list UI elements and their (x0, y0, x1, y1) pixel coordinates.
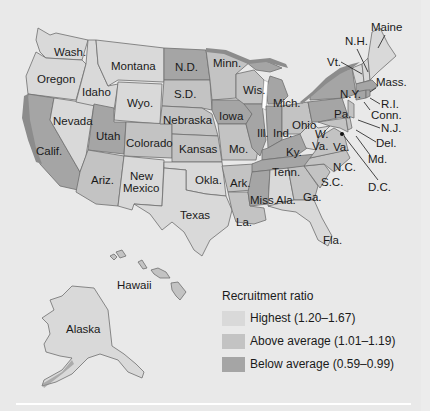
state-rhode-island (366, 90, 370, 98)
label-va: Va. (333, 141, 349, 153)
label-oregon: Oregon (37, 73, 75, 85)
label-sc: S.C. (321, 176, 343, 188)
label-nd: N.D. (175, 61, 198, 73)
label-mo: Mo. (229, 143, 248, 155)
label-calif: Calif. (36, 145, 62, 157)
legend-item-above-average: Above average (1.01–1.19) (222, 333, 395, 349)
label-nm-1: New (130, 170, 154, 182)
legend-title: Recruitment ratio (222, 289, 395, 303)
legend-swatch-above-average (222, 334, 245, 349)
label-conn: Conn. (371, 109, 402, 121)
label-wyo: Wyo. (127, 97, 153, 109)
label-texas: Texas (180, 209, 210, 221)
label-wva-va: Va. (312, 140, 328, 152)
legend-item-highest: Highest (1.20–1.67) (222, 310, 395, 326)
label-pa: Pa. (334, 108, 351, 120)
state-alaska (42, 286, 144, 386)
label-ala: Ala. (276, 194, 296, 206)
label-mich: Mich. (273, 97, 300, 109)
marker-dc (340, 132, 344, 136)
label-nebraska: Nebraska (163, 114, 213, 126)
label-ny: N.Y. (340, 88, 361, 100)
label-vt: Vt. (327, 56, 341, 68)
label-wva-w: W. (315, 128, 328, 140)
label-nm-2: Mexico (123, 182, 159, 194)
label-nc: N.C. (333, 161, 356, 173)
label-sd: S.D. (174, 88, 196, 100)
label-montana: Montana (111, 60, 156, 72)
label-del: Del. (376, 137, 396, 149)
label-ga: Ga. (303, 191, 322, 203)
legend-swatch-below-average (222, 357, 245, 372)
label-minn: Minn. (213, 57, 241, 69)
label-maine: Maine (371, 21, 402, 33)
label-ohio: Ohio (292, 119, 316, 131)
legend-label-highest: Highest (1.20–1.67) (250, 311, 355, 325)
label-iowa: Iowa (219, 110, 244, 122)
label-ariz: Ariz. (91, 174, 114, 186)
legend-label-below-average: Below average (0.59–0.99) (250, 357, 394, 371)
state-maine (368, 28, 396, 80)
label-md: Md. (368, 153, 387, 165)
label-ark: Ark. (230, 177, 250, 189)
label-nevada: Nevada (53, 115, 93, 127)
label-nh: N.H. (345, 35, 368, 47)
leader-nj (358, 120, 380, 128)
legend-label-above-average: Above average (1.01–1.19) (250, 334, 395, 348)
label-hawaii: Hawaii (117, 279, 152, 291)
right-margin (421, 0, 430, 411)
legend: Recruitment ratio Highest (1.20–1.67) Ab… (222, 289, 395, 379)
label-miss: Miss. (250, 194, 277, 206)
label-tenn: Tenn. (272, 166, 300, 178)
legend-item-below-average: Below average (0.59–0.99) (222, 356, 395, 372)
label-dc: D.C. (368, 181, 391, 193)
label-kansas: Kansas (179, 143, 218, 155)
label-la: La. (236, 216, 252, 228)
legend-swatch-highest (222, 311, 245, 326)
label-fla: Fla. (323, 234, 342, 246)
label-mass: Mass. (376, 76, 407, 88)
leader-conn (364, 102, 370, 110)
leader-ri (370, 98, 380, 104)
label-ind: Ind. (273, 127, 292, 139)
label-ky: Ky. (286, 146, 302, 158)
label-ill: Ill. (257, 127, 269, 139)
label-utah: Utah (96, 130, 120, 142)
label-colorado: Colorado (126, 137, 173, 149)
footer-divider (16, 403, 411, 405)
state-hawaii-islands (110, 250, 186, 300)
label-alaska: Alaska (66, 323, 101, 335)
label-wis: Wis. (243, 84, 265, 96)
label-okla: Okla. (195, 174, 222, 186)
label-idaho: Idaho (82, 86, 111, 98)
label-wash: Wash. (54, 46, 86, 58)
label-nj: N.J. (381, 122, 401, 134)
leader-md (356, 136, 370, 155)
